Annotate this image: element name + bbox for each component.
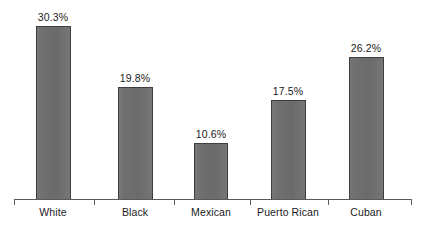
bar-value-label: 26.2% xyxy=(351,42,381,54)
x-axis-category-label: Puerto Rican xyxy=(257,206,319,218)
bar-group-black: 19.8% xyxy=(118,0,153,200)
bar-value-label: 19.8% xyxy=(120,72,150,84)
bar-group-puerto-rican: 17.5% xyxy=(271,0,306,200)
bar-value-label: 10.6% xyxy=(196,128,226,140)
x-axis-tick xyxy=(250,199,251,205)
x-axis-tick xyxy=(14,199,15,205)
bar xyxy=(271,100,306,200)
bar-group-white: 30.3% xyxy=(36,0,71,200)
bar xyxy=(36,26,71,200)
bar-value-label: 17.5% xyxy=(273,85,303,97)
bar-group-cuban: 26.2% xyxy=(349,0,384,200)
bar xyxy=(349,57,384,200)
bar-group-mexican: 10.6% xyxy=(194,0,228,200)
plot-area: 30.3% 19.8% 10.6% 17.5% 26.2% xyxy=(0,0,426,200)
x-axis-line xyxy=(14,199,412,200)
x-axis-category-label: Mexican xyxy=(191,206,231,218)
x-axis-tick xyxy=(174,199,175,205)
x-axis-tick xyxy=(411,199,412,205)
x-axis-tick xyxy=(94,199,95,205)
bar xyxy=(118,87,153,200)
x-axis-category-label: White xyxy=(39,206,66,218)
bar-value-label: 30.3% xyxy=(38,11,68,23)
bar-chart: 30.3% 19.8% 10.6% 17.5% 26.2% White Blac… xyxy=(0,0,426,231)
x-axis-tick xyxy=(328,199,329,205)
x-axis-category-label: Black xyxy=(122,206,148,218)
bar xyxy=(194,143,228,200)
x-axis-category-label: Cuban xyxy=(350,206,381,218)
